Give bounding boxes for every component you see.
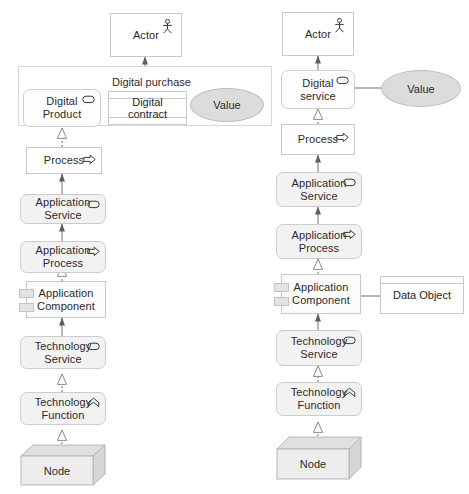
- right-value-label: Value: [407, 83, 434, 95]
- right-technology-service-node[interactable]: Technology Service: [276, 330, 362, 366]
- component-icon: [274, 283, 290, 313]
- right-application-process-label: Application Process: [280, 229, 359, 255]
- left-application-component-node[interactable]: Application Component: [26, 281, 106, 318]
- right-application-service-label: Application Service: [280, 177, 359, 203]
- digital-service-label: Digital service: [288, 77, 348, 103]
- left-technology-function-label: Technology Function: [23, 396, 104, 422]
- actor-stick-figure-icon: [162, 19, 173, 34]
- left-value-node[interactable]: Value: [190, 88, 264, 122]
- right-value-node[interactable]: Value: [381, 70, 461, 107]
- left-actor-node[interactable]: Actor: [110, 13, 182, 57]
- left-technology-service-node[interactable]: Technology Service: [20, 336, 106, 369]
- right-node-node[interactable]: Node: [276, 436, 362, 480]
- right-node-label: Node: [277, 449, 349, 479]
- component-icon: [19, 289, 35, 319]
- left-process-node[interactable]: Process: [26, 147, 102, 174]
- left-application-process-node[interactable]: Application Process: [20, 241, 106, 273]
- right-technology-service-label: Technology Service: [279, 335, 360, 361]
- digital-product-label: Digital Product: [31, 95, 94, 121]
- digital-product-node[interactable]: Digital Product: [23, 89, 101, 127]
- left-value-label: Value: [213, 99, 240, 111]
- digital-service-node[interactable]: Digital service: [281, 70, 355, 109]
- right-process-node[interactable]: Process: [281, 124, 355, 155]
- diagram-canvas: Actor Digital purchase Digital Product D…: [0, 0, 469, 494]
- left-application-service-node[interactable]: Application Service: [20, 194, 106, 224]
- right-technology-function-node[interactable]: Technology Function: [276, 382, 362, 416]
- left-node-node[interactable]: Node: [20, 444, 106, 486]
- right-application-component-node[interactable]: Application Component: [281, 274, 361, 314]
- actor-stick-figure-icon: [334, 18, 345, 33]
- left-node-label: Node: [21, 456, 93, 485]
- left-application-component-label: Application Component: [25, 287, 107, 313]
- data-object-node[interactable]: Data Object: [380, 276, 464, 314]
- right-application-component-label: Application Component: [280, 281, 362, 307]
- digital-purchase-grouping-label: Digital purchase: [112, 76, 191, 88]
- right-process-label: Process: [286, 133, 350, 146]
- left-technology-function-node[interactable]: Technology Function: [20, 392, 106, 425]
- right-application-process-node[interactable]: Application Process: [276, 224, 362, 259]
- right-actor-node[interactable]: Actor: [282, 12, 354, 56]
- data-object-icon: [381, 277, 463, 284]
- right-technology-function-label: Technology Function: [279, 386, 360, 412]
- left-process-label: Process: [32, 154, 96, 167]
- left-technology-service-label: Technology Service: [23, 340, 104, 366]
- right-application-service-node[interactable]: Application Service: [276, 172, 362, 207]
- left-application-process-label: Application Process: [24, 244, 103, 270]
- digital-contract-label: Digital contract: [109, 96, 186, 120]
- left-application-service-label: Application Service: [24, 196, 103, 222]
- data-object-label: Data Object: [387, 289, 457, 301]
- digital-contract-node[interactable]: Digital contract: [108, 91, 187, 125]
